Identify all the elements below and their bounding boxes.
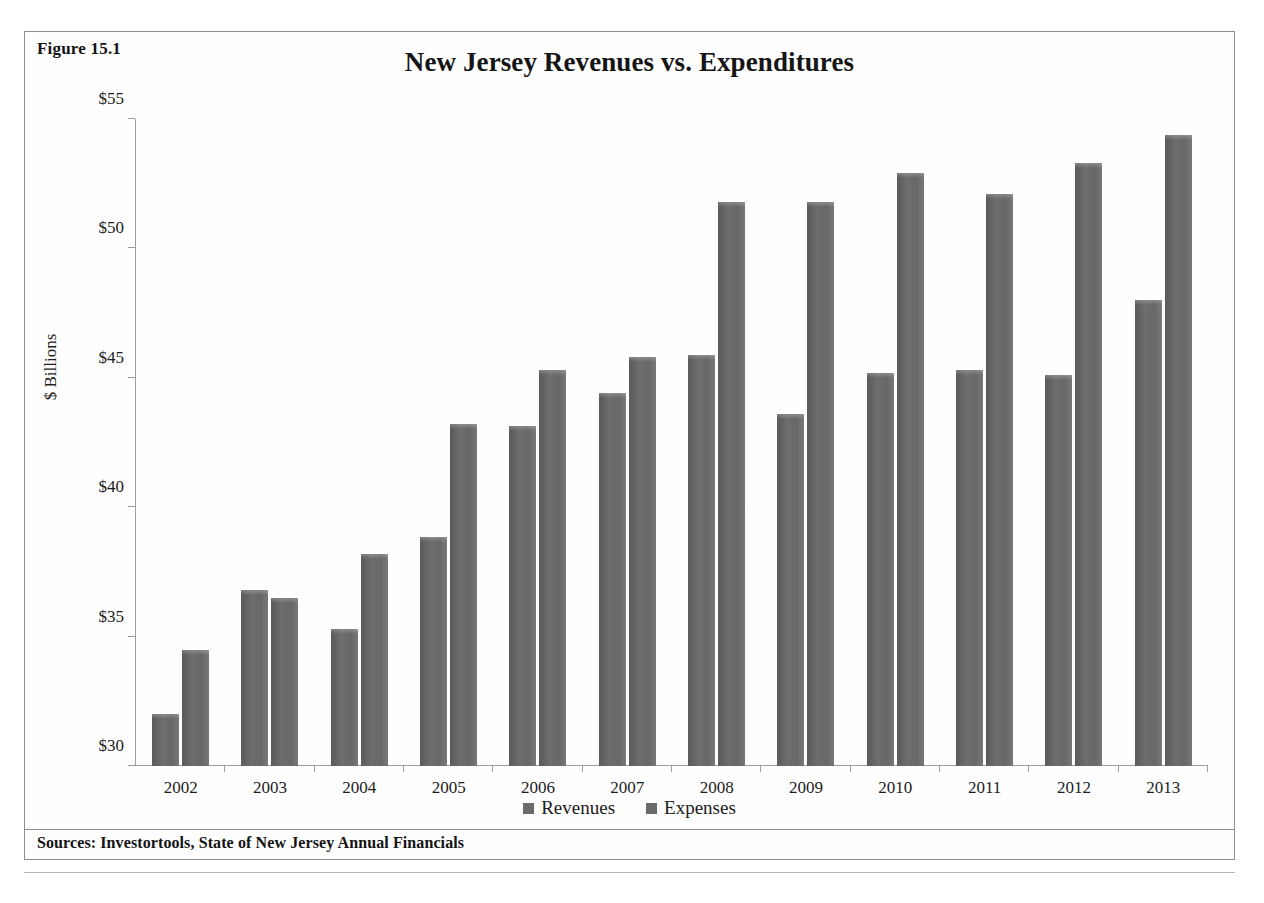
x-tick-mark <box>1118 766 1119 772</box>
x-tick-label: 2011 <box>940 778 1029 798</box>
y-tick-label: $45 <box>99 348 125 368</box>
x-tick-mark <box>314 766 315 772</box>
x-tick-label: 2012 <box>1029 778 1118 798</box>
legend-label: Expenses <box>664 797 736 819</box>
x-tick-label: 2002 <box>136 778 225 798</box>
plot-area: $30$35$40$45$50$55 200220032004200520062… <box>135 119 1208 766</box>
bars-layer: 2002200320042005200620072008200920102011… <box>136 119 1208 766</box>
legend-swatch-icon <box>523 803 534 814</box>
bar-expenses-2008 <box>718 202 745 766</box>
y-tick-mark <box>128 247 135 248</box>
bar-revenues-2009 <box>777 414 804 766</box>
x-tick-label: 2007 <box>583 778 672 798</box>
bar-revenues-2012 <box>1045 375 1072 766</box>
x-tick-label: 2008 <box>672 778 761 798</box>
y-tick-label: $50 <box>99 218 125 238</box>
x-tick-mark <box>1028 766 1029 772</box>
year-group: 2012 <box>1029 119 1118 766</box>
y-tick-mark <box>128 506 135 507</box>
bar-revenues-2004 <box>331 629 358 766</box>
bar-expenses-2002 <box>182 650 209 766</box>
year-group: 2008 <box>672 119 761 766</box>
bar-expenses-2011 <box>986 194 1013 766</box>
chart-title: New Jersey Revenues vs. Expenditures <box>25 47 1234 78</box>
y-tick-mark <box>128 636 135 637</box>
year-group: 2004 <box>315 119 404 766</box>
x-tick-mark <box>1207 766 1208 772</box>
x-tick-mark <box>492 766 493 772</box>
year-group: 2011 <box>940 119 1029 766</box>
x-tick-label: 2009 <box>761 778 850 798</box>
y-axis-title: $ Billions <box>41 307 61 427</box>
bar-revenues-2011 <box>956 370 983 766</box>
bar-expenses-2012 <box>1075 163 1102 766</box>
chart-legend: RevenuesExpenses <box>25 797 1234 819</box>
figure-frame: Figure 15.1 New Jersey Revenues vs. Expe… <box>24 31 1235 860</box>
bar-expenses-2009 <box>807 202 834 766</box>
bar-expenses-2004 <box>361 554 388 766</box>
bar-revenues-2002 <box>152 714 179 766</box>
x-tick-mark <box>850 766 851 772</box>
x-tick-mark <box>224 766 225 772</box>
x-tick-label: 2004 <box>315 778 404 798</box>
x-tick-label: 2010 <box>851 778 940 798</box>
year-group: 2009 <box>761 119 850 766</box>
bar-revenues-2007 <box>599 393 626 766</box>
y-tick-label: $40 <box>99 477 125 497</box>
bar-expenses-2005 <box>450 424 477 766</box>
bar-revenues-2008 <box>688 355 715 766</box>
bar-expenses-2013 <box>1165 135 1192 766</box>
x-tick-mark <box>671 766 672 772</box>
x-tick-label: 2003 <box>225 778 314 798</box>
year-group: 2010 <box>851 119 940 766</box>
legend-label: Revenues <box>541 797 615 819</box>
year-group: 2006 <box>493 119 582 766</box>
footnote-divider <box>25 829 1234 830</box>
legend-item-expenses[interactable]: Expenses <box>646 797 736 819</box>
y-tick-mark <box>128 765 135 766</box>
bar-revenues-2005 <box>420 537 447 766</box>
y-tick-label: $30 <box>99 736 125 756</box>
bar-revenues-2010 <box>867 373 894 766</box>
x-tick-mark <box>939 766 940 772</box>
year-group: 2005 <box>404 119 493 766</box>
y-tick-mark <box>128 118 135 119</box>
y-tick-label: $55 <box>99 89 125 109</box>
bar-expenses-2007 <box>629 357 656 766</box>
bar-revenues-2013 <box>1135 300 1162 766</box>
year-group: 2002 <box>136 119 225 766</box>
year-group: 2013 <box>1119 119 1208 766</box>
year-group: 2003 <box>225 119 314 766</box>
x-tick-label: 2013 <box>1119 778 1208 798</box>
page-bottom-rule <box>24 872 1235 873</box>
x-tick-mark <box>582 766 583 772</box>
bar-revenues-2006 <box>509 426 536 766</box>
legend-swatch-icon <box>646 803 657 814</box>
y-tick-mark <box>128 377 135 378</box>
x-tick-mark <box>403 766 404 772</box>
bar-expenses-2006 <box>539 370 566 766</box>
bar-expenses-2010 <box>897 173 924 766</box>
y-tick-label: $35 <box>99 607 125 627</box>
year-group: 2007 <box>583 119 672 766</box>
x-tick-mark <box>760 766 761 772</box>
x-tick-label: 2005 <box>404 778 493 798</box>
bar-revenues-2003 <box>241 590 268 766</box>
bar-expenses-2003 <box>271 598 298 766</box>
x-tick-label: 2006 <box>493 778 582 798</box>
legend-item-revenues[interactable]: Revenues <box>523 797 615 819</box>
source-note: Sources: Investortools, State of New Jer… <box>37 834 464 852</box>
